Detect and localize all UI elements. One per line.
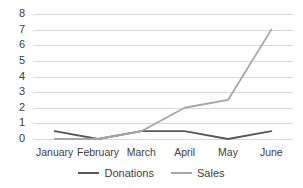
y-tick-label: 3 [19,86,25,97]
x-tick-label: April [174,146,195,158]
y-tick-label: 6 [19,39,25,50]
x-axis: JanuaryFebruaryMarchAprilMayJune [33,146,293,162]
y-tick-label: 1 [19,117,25,128]
y-tick-label: 8 [19,8,25,19]
x-tick-label: May [218,146,238,158]
legend-item-sales[interactable]: Sales [171,167,225,179]
y-axis: 012345678 [0,0,31,188]
y-tick-label: 4 [19,71,25,82]
legend-label: Sales [197,167,225,179]
series-line-donations [55,131,272,139]
x-tick-label: February [77,146,119,158]
series-layer [33,14,293,139]
x-tick-label: March [127,146,156,158]
x-tick-label: January [36,146,73,158]
legend-swatch-icon [78,172,99,174]
plot-area [33,14,293,139]
legend-label: Donations [104,167,154,179]
series-line-sales [55,30,272,139]
y-tick-label: 7 [19,24,25,35]
y-tick-label: 5 [19,55,25,66]
line-chart: 012345678 JanuaryFebruaryMarchAprilMayJu… [0,0,303,188]
chart-legend: DonationsSales [0,167,303,179]
y-tick-label: 0 [19,133,25,144]
legend-item-donations[interactable]: Donations [78,167,154,179]
legend-swatch-icon [171,172,192,174]
x-tick-label: June [260,146,283,158]
y-tick-label: 2 [19,102,25,113]
